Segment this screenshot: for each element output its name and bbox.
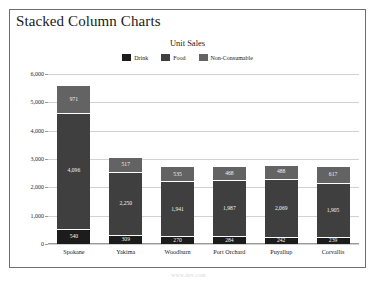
stacked-bar[interactable]: 6171,905239 (317, 166, 350, 244)
bar-segment-non-consumable[interactable]: 488 (265, 165, 298, 179)
bar-segment-food[interactable]: 1,905 (317, 183, 350, 237)
bar-segment-drink[interactable]: 309 (109, 235, 142, 244)
bar-segment-non-consumable[interactable]: 617 (317, 166, 350, 183)
chart-frame: Stacked Column Charts Unit Sales Drink F… (9, 9, 366, 268)
bar-segment-drink[interactable]: 239 (317, 237, 350, 244)
bar-segment-drink[interactable]: 284 (213, 236, 246, 244)
bar-segment-value: 971 (70, 97, 78, 103)
bar-segment-non-consumable[interactable]: 517 (109, 157, 142, 172)
legend-swatch-food (161, 54, 170, 61)
x-axis-category-label: Yakima (100, 248, 152, 255)
y-axis-tick-label: 6,000 (31, 71, 45, 77)
legend-swatch-drink (122, 54, 131, 61)
bar-segment-value: 1,987 (223, 206, 236, 212)
bar-segment-food[interactable]: 2,250 (109, 172, 142, 236)
bar-segment-drink[interactable]: 270 (161, 236, 194, 244)
watermark: www.dev.com (0, 272, 377, 278)
bar-segment-value: 270 (173, 238, 181, 244)
chart-title: Unit Sales (10, 38, 365, 48)
bar-segment-value: 2,069 (275, 206, 288, 212)
y-axis-tick-label: 2,000 (31, 184, 45, 190)
bar-segment-value: 540 (70, 234, 78, 240)
bar-segment-value: 2,250 (119, 201, 132, 207)
plot-wrapper: 6,0005,0004,0003,0002,0001,0000 9714,096… (10, 68, 367, 266)
x-axis-category-label: Port Orchard (203, 248, 255, 255)
legend-label-food: Food (173, 55, 185, 61)
bar-segment-value: 517 (122, 162, 130, 168)
y-axis-tick-label: 4,000 (31, 128, 45, 134)
x-axis-category-label: Woodburn (152, 248, 204, 255)
bar-group: 9714,0965405172,2503095351,9412704681,98… (48, 74, 359, 244)
bar-segment-value: 535 (173, 172, 181, 178)
stacked-bar[interactable]: 5172,250309 (109, 157, 142, 244)
bar-slot: 6171,905239 (307, 74, 359, 244)
bar-slot: 4681,987284 (203, 74, 255, 244)
bar-segment-value: 468 (225, 171, 233, 177)
bar-slot: 9714,096540 (48, 74, 100, 244)
legend-swatch-non-consumable (199, 54, 208, 61)
bar-segment-value: 617 (329, 172, 337, 178)
y-axis-tick-label: 3,000 (31, 156, 45, 162)
legend-label-drink: Drink (134, 55, 148, 61)
bar-segment-food[interactable]: 1,941 (161, 181, 194, 236)
bar-segment-value: 1,941 (171, 207, 184, 213)
bar-slot: 5351,941270 (152, 74, 204, 244)
stacked-bar[interactable]: 4882,069242 (265, 165, 298, 244)
bar-segment-food[interactable]: 4,096 (57, 113, 90, 229)
x-axis-category-label: Corvallis (307, 248, 359, 255)
bar-slot: 4882,069242 (255, 74, 307, 244)
bar-segment-value: 1,905 (327, 208, 340, 214)
bar-slot: 5172,250309 (100, 74, 152, 244)
y-tick-mark (45, 244, 48, 245)
stacked-bar[interactable]: 5351,941270 (161, 166, 194, 244)
y-axis-tick-label: 5,000 (31, 99, 45, 105)
bar-segment-food[interactable]: 1,987 (213, 180, 246, 236)
y-axis-tick-label: 1,000 (31, 213, 45, 219)
plot-area: 6,0005,0004,0003,0002,0001,0000 9714,096… (48, 74, 359, 244)
bar-segment-non-consumable[interactable]: 971 (57, 85, 90, 113)
y-axis-tick-label: 0 (41, 241, 44, 247)
bar-segment-value: 284 (225, 238, 233, 244)
legend-label-non-consumable: Non-Consumable (211, 55, 253, 61)
bar-segment-value: 4,096 (68, 168, 81, 174)
legend-item-non-consumable[interactable]: Non-Consumable (199, 54, 253, 61)
bar-segment-value: 488 (277, 169, 285, 175)
stacked-bar[interactable]: 4681,987284 (213, 166, 246, 244)
bar-segment-drink[interactable]: 540 (57, 229, 90, 244)
x-axis-category-label: Puyallup (255, 248, 307, 255)
x-axis-category-label: Spokane (48, 248, 100, 255)
bar-segment-food[interactable]: 2,069 (265, 179, 298, 238)
bar-segment-value: 239 (329, 238, 337, 244)
gridline (48, 244, 359, 245)
bar-segment-value: 309 (122, 237, 130, 243)
legend-item-drink[interactable]: Drink (122, 54, 148, 61)
legend-item-food[interactable]: Food (161, 54, 185, 61)
x-axis-labels: SpokaneYakimaWoodburnPort OrchardPuyallu… (48, 248, 359, 255)
bar-segment-non-consumable[interactable]: 535 (161, 166, 194, 181)
chart-legend: Drink Food Non-Consumable (10, 54, 365, 61)
stacked-bar[interactable]: 9714,096540 (57, 85, 90, 244)
bar-segment-drink[interactable]: 242 (265, 237, 298, 244)
bar-segment-value: 242 (277, 238, 285, 244)
page-title: Stacked Column Charts (16, 13, 161, 30)
bar-segment-non-consumable[interactable]: 468 (213, 166, 246, 179)
